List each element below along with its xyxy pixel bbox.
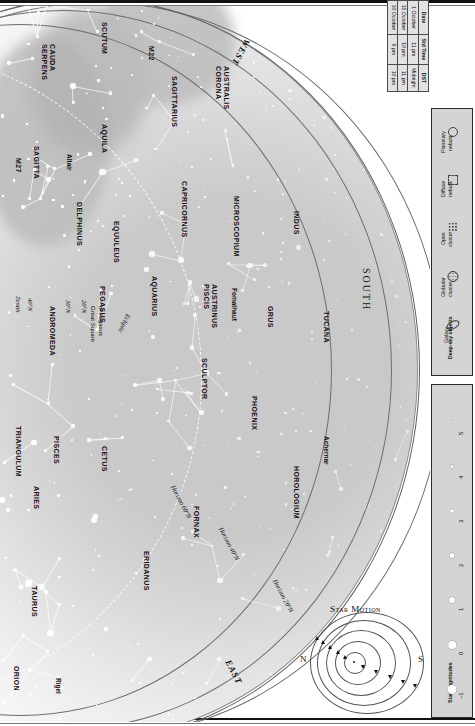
latitude-20N: 20°N (81, 300, 88, 313)
star (200, 86, 201, 87)
star (280, 258, 282, 260)
magnitude-label-4: 3 (458, 520, 464, 523)
cell-date: 30 October (388, 1, 398, 35)
legend-label-diffuse-2: nebula (448, 181, 454, 197)
star (141, 57, 143, 59)
star (27, 43, 29, 45)
constellation-label-phoenix: PHOENIX (251, 396, 258, 430)
star (237, 437, 240, 440)
magnitude-dot-2 (449, 597, 455, 603)
star (98, 555, 100, 557)
star (72, 194, 74, 196)
legend-item-open-cluster: Open cluster (432, 209, 474, 249)
cell-std: 10 pm (398, 34, 408, 64)
celestial-pole-marker (353, 661, 355, 663)
star (282, 242, 284, 244)
star (35, 685, 37, 687)
constellation-label-altair: Altair (66, 154, 73, 171)
constellation-label-equuleus: EQUULEUS (113, 221, 120, 263)
star (385, 227, 386, 228)
constellation-label-sculptor: SCULPTOR (201, 358, 208, 400)
constellation-label-austrinus-2: AUSTRINUS (211, 284, 218, 328)
star-motion-inset: Star Motion N S (292, 600, 432, 720)
star (27, 158, 29, 160)
star (191, 504, 192, 505)
constellation-label-rigel: Rigel (55, 678, 62, 694)
star (328, 240, 330, 242)
legend-label-globular-2: cluster (448, 282, 454, 297)
star (0, 497, 5, 502)
magnitude-dot-5 (451, 465, 454, 468)
bottom-rule-thin (0, 723, 475, 724)
star (391, 281, 392, 282)
star (115, 194, 117, 196)
constellation-label-orion: ORION (13, 666, 20, 691)
star (282, 193, 284, 195)
star (13, 179, 15, 181)
star (191, 544, 193, 546)
star (194, 697, 195, 698)
magnitude-dot-6 (451, 421, 453, 423)
table-row: 15 October 10 pm 11 pm (398, 1, 408, 92)
magnitude-dot-4 (450, 509, 454, 513)
star (380, 233, 383, 236)
star (325, 178, 328, 181)
star (92, 569, 94, 571)
star (97, 220, 99, 222)
magnitude-label-2: 1 (458, 608, 464, 611)
star-motion-arrow (413, 684, 417, 688)
magnitude-label-3: 2 (458, 564, 464, 567)
constellation-label-serpens: SERPENS (41, 44, 48, 80)
star (199, 306, 201, 308)
star (238, 329, 240, 331)
star (26, 123, 28, 125)
legend-label-galaxy: Galaxy (444, 327, 450, 343)
star (78, 249, 80, 251)
star (346, 378, 348, 380)
open-cluster-icon (448, 222, 458, 232)
star (162, 719, 164, 721)
cell-dst: 10 pm (388, 64, 398, 91)
th-dst: DST (418, 64, 428, 91)
star (311, 331, 313, 333)
star (345, 233, 347, 235)
star (277, 178, 279, 180)
constellation-label-corona: CORONA (215, 66, 222, 100)
star (96, 704, 98, 706)
constellation-label-taurus: TAURUS (31, 586, 38, 617)
star (131, 409, 133, 411)
star (95, 65, 97, 67)
star (141, 10, 142, 11)
constellation-label-aries: ARIES (33, 486, 40, 509)
star (115, 415, 117, 417)
star (268, 286, 270, 288)
magnitude-label-0: –1 (458, 692, 464, 699)
constellation-label-piscis: PISCIS (203, 284, 210, 309)
th-std-time: Std Time (418, 34, 428, 64)
cell-date: 1 October (408, 1, 418, 35)
visibility-time-table: Date Std Time DST 1 October 11 pm Midnig… (387, 0, 429, 92)
great-square-line2: of Pegasus (98, 306, 104, 336)
star (53, 705, 55, 707)
magnitude-label-5: 4 (458, 476, 464, 479)
cell-dst: 11 pm (398, 64, 408, 91)
star (72, 605, 74, 607)
constellation-label-delphinus: DELPHINUS (76, 202, 83, 246)
star (52, 199, 54, 201)
star (158, 17, 159, 18)
star (256, 452, 257, 453)
globular-cluster-icon (448, 271, 459, 282)
direction-south: SOUTH (361, 268, 372, 311)
star (204, 196, 205, 197)
star (97, 79, 99, 81)
star (5, 557, 7, 559)
constellation-label-tucana: TUCANA (323, 311, 330, 343)
great-square-line1: Great Square (90, 306, 96, 342)
constellation-label-fornax: FORNAX (193, 506, 200, 538)
star (185, 415, 186, 416)
constellation-label-grus: GRUS (267, 306, 274, 328)
star (171, 683, 172, 684)
star (305, 589, 307, 591)
th-date: Date (418, 1, 428, 35)
star (288, 282, 290, 284)
